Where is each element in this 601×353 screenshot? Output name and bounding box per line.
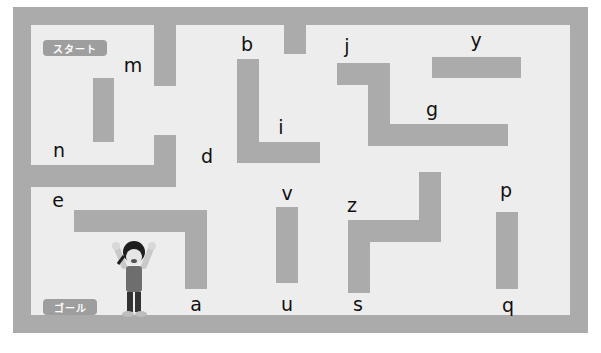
wall-vu-bar bbox=[276, 207, 298, 283]
letter-u: u bbox=[281, 295, 293, 314]
letter-g: g bbox=[426, 100, 438, 119]
wall-m-bar bbox=[93, 78, 114, 142]
letter-e: e bbox=[52, 191, 64, 210]
letter-q: q bbox=[502, 296, 514, 315]
letter-v: v bbox=[281, 184, 292, 203]
letter-p: p bbox=[500, 181, 512, 200]
wall-y-bar bbox=[432, 57, 521, 78]
wall-i-horizontal bbox=[237, 142, 320, 163]
letter-z: z bbox=[347, 196, 357, 215]
wall-s-vertical bbox=[348, 220, 370, 293]
letter-n: n bbox=[53, 141, 65, 160]
wall-pq-bar bbox=[496, 212, 518, 289]
goal-badge: ゴール bbox=[43, 299, 97, 315]
letter-j: j bbox=[344, 37, 349, 56]
wall-top-stub bbox=[284, 7, 306, 54]
wall-n-horizontal bbox=[13, 165, 176, 187]
wall-top-left-vertical bbox=[154, 7, 176, 86]
letter-d: d bbox=[201, 147, 213, 166]
letter-a: a bbox=[190, 295, 202, 314]
letter-i: i bbox=[278, 118, 283, 137]
letter-b: b bbox=[241, 35, 253, 54]
letter-m: m bbox=[124, 56, 143, 75]
letter-y: y bbox=[470, 31, 481, 50]
wall-a-vertical bbox=[185, 210, 207, 289]
start-badge: スタート bbox=[43, 40, 107, 56]
letter-s: s bbox=[353, 295, 363, 314]
wall-g-horizontal bbox=[368, 124, 508, 146]
girl-cheering-icon bbox=[110, 238, 158, 320]
